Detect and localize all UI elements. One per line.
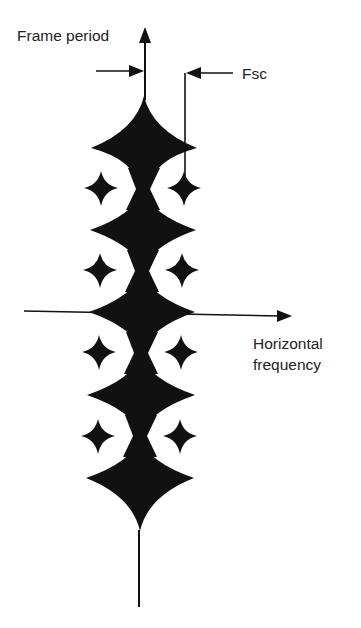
side-star: [81, 419, 115, 454]
side-star: [83, 253, 117, 288]
right-arrowhead-icon: [129, 65, 144, 77]
main-star-1: [91, 96, 197, 188]
left-arrowhead-icon: [186, 67, 201, 79]
main-star-4: [87, 355, 195, 435]
horizontal-axis-label-line2: frequency: [253, 356, 321, 373]
main-star-5: [86, 438, 194, 531]
frame-period-marker-arrow: [96, 65, 144, 77]
vertical-axis-arrowhead-icon: [139, 27, 151, 43]
side-star: [167, 171, 201, 206]
side-star: [163, 419, 197, 454]
fsc-marker: [185, 67, 233, 176]
fsc-label: Fsc: [242, 65, 267, 82]
side-star: [84, 171, 118, 206]
main-star-2: [90, 190, 196, 270]
vertical-axis-label: Frame period: [17, 27, 109, 44]
spectrum-diagram: Frame period Fsc Horizontal frequency: [0, 0, 361, 628]
main-star-3: [89, 272, 195, 352]
luminance-spectrum-chain: [86, 96, 197, 531]
side-star: [82, 335, 116, 370]
side-star: [165, 253, 199, 288]
horizontal-axis-arrowhead-icon: [277, 310, 292, 322]
side-star: [164, 335, 198, 370]
horizontal-axis-label-line1: Horizontal: [253, 335, 323, 352]
